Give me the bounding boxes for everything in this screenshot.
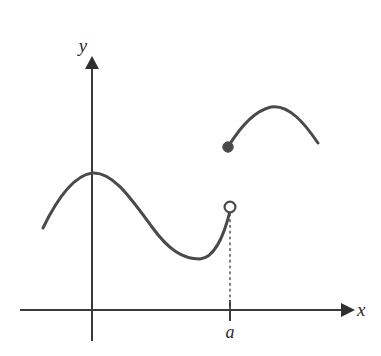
figure-background xyxy=(0,0,381,356)
open-circle-marker xyxy=(225,202,236,213)
y-axis-label: y xyxy=(77,35,88,56)
filled-dot-marker xyxy=(223,142,233,152)
figure-container: x y a xyxy=(0,0,381,356)
graph-figure: x y a xyxy=(0,0,381,356)
x-axis-label: x xyxy=(356,299,366,320)
x-value-label-a: a xyxy=(226,322,235,342)
